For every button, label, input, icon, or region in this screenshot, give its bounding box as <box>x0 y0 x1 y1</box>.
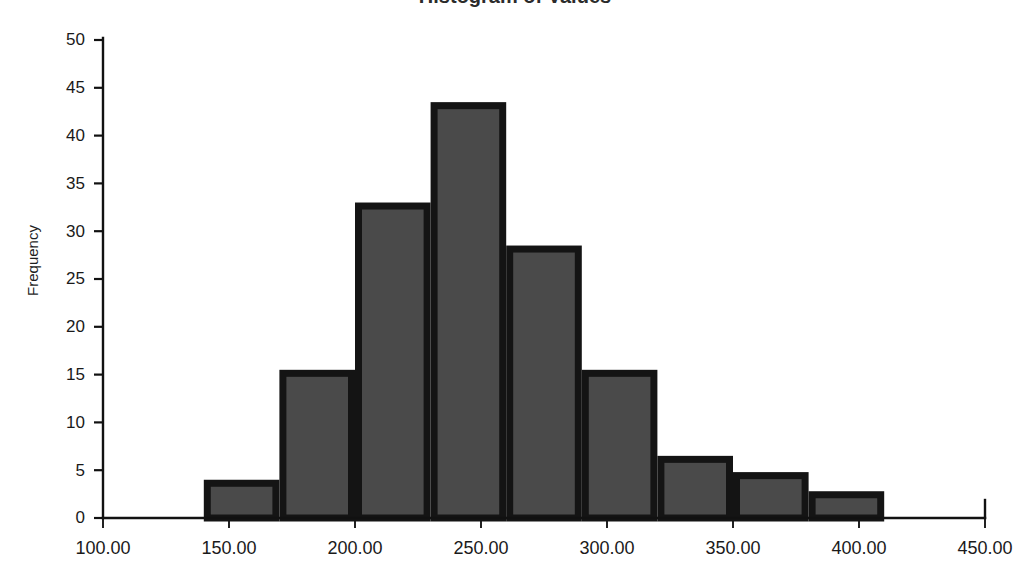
x-tick-label: 300.00 <box>579 538 634 558</box>
histogram-bar <box>812 495 881 518</box>
x-tick-label: 150.00 <box>201 538 256 558</box>
histogram-bar <box>737 476 806 518</box>
histogram-bar <box>283 373 352 518</box>
y-tick-label: 0 <box>76 508 85 527</box>
x-tick-label: 250.00 <box>453 538 508 558</box>
y-tick-label: 30 <box>66 222 85 241</box>
histogram-chart: Histogram of Values Frequency 0510152025… <box>0 0 1030 584</box>
plot-area: 05101520253035404550 100.00150.00200.002… <box>0 0 1030 584</box>
histogram-bar <box>434 106 503 518</box>
x-axis-ticks: 100.00150.00200.00250.00300.00350.00400.… <box>75 518 1012 558</box>
histogram-bar <box>207 483 276 518</box>
histogram-bar <box>510 249 579 518</box>
x-tick-label: 450.00 <box>957 538 1012 558</box>
y-tick-label: 10 <box>66 413 85 432</box>
histogram-bars <box>207 106 880 518</box>
x-tick-label: 400.00 <box>831 538 886 558</box>
histogram-bar <box>585 373 654 518</box>
y-axis-ticks: 05101520253035404550 <box>66 30 103 527</box>
x-tick-label: 200.00 <box>327 538 382 558</box>
y-tick-label: 25 <box>66 269 85 288</box>
y-tick-label: 5 <box>76 461 85 480</box>
y-tick-label: 50 <box>66 30 85 49</box>
y-tick-label: 15 <box>66 365 85 384</box>
y-tick-label: 45 <box>66 78 85 97</box>
y-tick-label: 40 <box>66 126 85 145</box>
x-tick-label: 100.00 <box>75 538 130 558</box>
histogram-bar <box>661 459 730 518</box>
x-tick-label: 350.00 <box>705 538 760 558</box>
y-tick-label: 35 <box>66 174 85 193</box>
y-tick-label: 20 <box>66 317 85 336</box>
histogram-bar <box>359 206 428 518</box>
